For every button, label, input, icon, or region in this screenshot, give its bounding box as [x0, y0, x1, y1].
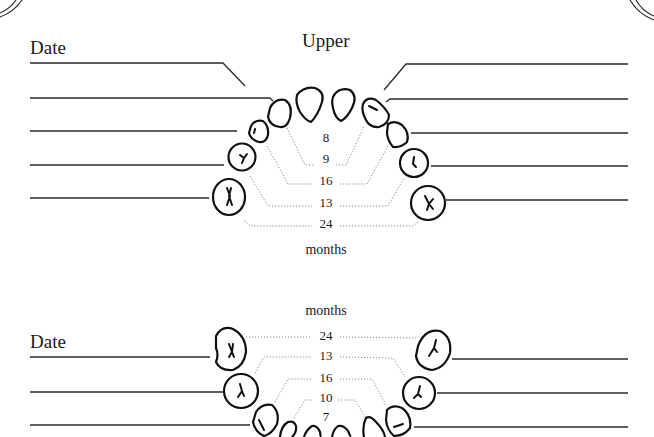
lower-canine-right: [386, 406, 410, 436]
upper-first-molar-right: [400, 149, 428, 177]
lower-date-label: Date: [30, 331, 66, 352]
lower-left-date-lines[interactable]: [30, 357, 250, 425]
upper-left-date-lines[interactable]: [30, 63, 273, 198]
lower-second-molar-left: [216, 328, 246, 370]
lower-month-canine: 16: [320, 370, 334, 385]
lower-second-molar-right: [416, 331, 450, 370]
upper-title: Upper: [302, 30, 350, 51]
upper-first-molar-left: [229, 144, 256, 171]
lower-first-molar-right: [403, 377, 435, 409]
lower-month-central-incisor: 7: [323, 409, 330, 424]
lower-month-first-molar: 13: [320, 348, 333, 363]
corner-ornament-left: [0, 0, 22, 17]
upper-lateral-incisor-right: [362, 99, 389, 127]
lower-central-incisor-left: [304, 426, 321, 437]
lower-eruption-months: 24 13 16 10 7: [320, 328, 334, 424]
upper-central-incisor-right: [332, 89, 354, 121]
lower-right-date-lines[interactable]: [414, 359, 628, 427]
lower-month-lateral-incisor: 10: [320, 390, 333, 405]
upper-lateral-incisor-left: [268, 100, 291, 127]
lower-lateral-incisor-left: [280, 422, 296, 437]
upper-central-incisor-left: [296, 88, 322, 122]
upper-right-date-lines[interactable]: [384, 64, 628, 200]
lower-canine-left: [253, 405, 278, 436]
upper-canine-left: [249, 121, 268, 143]
upper-canine-right: [387, 122, 408, 147]
upper-month-second-molar: 24: [320, 216, 334, 231]
lower-month-second-molar: 24: [320, 328, 334, 343]
upper-month-central-incisor: 8: [323, 130, 330, 145]
lower-central-incisor-right: [332, 426, 350, 437]
lower-lateral-incisor-right: [363, 417, 385, 437]
upper-month-first-molar: 13: [320, 195, 333, 210]
lower-teeth: [216, 328, 450, 437]
upper-months-label: months: [305, 242, 346, 257]
upper-second-molar-right: [411, 186, 445, 220]
teeth-eruption-chart: Date Upper: [0, 0, 654, 437]
upper-second-molar-left: [213, 179, 245, 215]
lower-first-molar-left: [224, 374, 258, 408]
upper-month-lateral-incisor: 9: [323, 151, 330, 166]
corner-ornament-right: [630, 0, 654, 20]
upper-date-label: Date: [30, 37, 66, 58]
upper-month-canine: 16: [320, 173, 334, 188]
upper-eruption-months: 8 9 16 13 24: [320, 130, 334, 231]
lower-months-label: months: [305, 303, 346, 318]
